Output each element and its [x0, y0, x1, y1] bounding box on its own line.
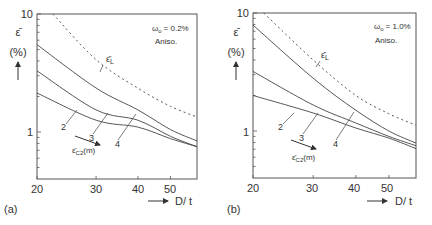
- x-tick-30: 30: [90, 183, 102, 195]
- x-tick-40: 40: [132, 183, 144, 195]
- dashed-label-leader: [100, 65, 103, 72]
- x-tick-20: 20: [247, 182, 259, 194]
- annotation-aniso: Aniso.: [155, 37, 177, 46]
- x-tick-50: 50: [164, 183, 176, 195]
- dashed-curve-label: ε̄L: [106, 54, 114, 65]
- axis-ticks: [253, 13, 389, 178]
- annotation-aniso: Aniso.: [375, 36, 397, 45]
- curve-label-2: 2: [278, 122, 283, 132]
- figure: 10 1 20 30 40 50 ε̄ (%) D/ t (a) ωo= 0.2…: [0, 0, 432, 225]
- y-tick-1: 1: [243, 126, 249, 138]
- y-axis-label: ε̄: [234, 26, 241, 38]
- y-tick-10: 10: [237, 7, 249, 19]
- curve-3-leader: [303, 113, 318, 134]
- panel-label: (a): [4, 203, 17, 215]
- arrow-label: ε̄C2(m): [72, 146, 96, 156]
- y-axis-unit: (%): [227, 46, 244, 58]
- x-axis-label: D/ t: [395, 195, 412, 207]
- panel-label: (b): [227, 203, 240, 215]
- panel-a: 10 1 20 30 40 50 ε̄ (%) D/ t (a) ωo= 0.2…: [4, 8, 197, 215]
- y-axis-unit: (%): [9, 46, 26, 58]
- curve-3-leader: [93, 113, 108, 134]
- x-tick-20: 20: [31, 183, 43, 195]
- axis-ticks: [37, 14, 170, 179]
- curve-label-4: 4: [333, 139, 338, 149]
- curve-label-4: 4: [115, 139, 120, 149]
- curve-label-2: 2: [61, 122, 66, 132]
- curve-label-3: 3: [299, 133, 304, 143]
- x-axis-label: D/ t: [175, 195, 192, 207]
- chart-canvas: 10 1 20 30 40 50 ε̄ (%) D/ t (a) ωo= 0.2…: [0, 0, 432, 225]
- increasing-arrow: [75, 136, 100, 145]
- panel-b: 10 1 20 30 40 50 ε̄ (%) D/ t (b) ωo= 1.0…: [227, 7, 416, 215]
- annotation-omega: ωo= 1.0%: [374, 22, 411, 32]
- y-axis-label: ε̄: [16, 26, 23, 38]
- curve-2-leader: [283, 113, 294, 124]
- curve-eps-C2-3: [37, 71, 197, 147]
- y-tick-10: 10: [21, 8, 33, 20]
- annotation-omega: ωo= 0.2%: [152, 24, 189, 34]
- x-tick-30: 30: [306, 182, 318, 194]
- curve-2-leader: [66, 110, 77, 124]
- dashed-curve-label: ε̄L: [321, 50, 329, 61]
- y-tick-1: 1: [27, 126, 33, 138]
- arrow-label: ε̄C2(m): [292, 153, 316, 163]
- x-tick-40: 40: [348, 182, 360, 194]
- x-tick-50: 50: [381, 182, 393, 194]
- curve-eps-C2-3: [253, 71, 416, 145]
